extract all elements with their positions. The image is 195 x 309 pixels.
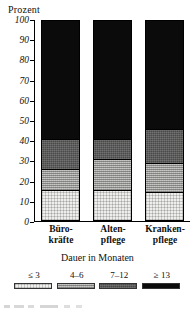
bar-segment [42,170,79,191]
bar-3 [145,20,184,221]
stacked-bar-chart: Prozent 0102030405060708090100 Büro-kräf… [0,0,195,309]
y-tick-label: 30 [20,156,30,166]
legend-label: ≤ 3 [14,270,54,281]
legend-label: ≥ 13 [142,270,182,281]
y-tick-mark [30,222,34,223]
legend-swatch [99,283,137,289]
bar-segment [42,21,79,140]
y-tick-mark [30,60,34,61]
legend: ≤ 34–67–12≥ 13 [14,270,182,289]
y-tick-label: 60 [20,96,30,106]
page-footer-artifact [4,305,114,308]
bar-segment [42,191,79,220]
y-tick-label: 50 [20,116,30,126]
y-tick-mark [30,182,34,183]
y-tick-label: 100 [15,15,29,25]
bar-segment [94,140,131,161]
y-tick-label: 40 [20,136,30,146]
y-tick-mark [30,101,34,102]
bar-segment [94,191,131,220]
y-tick-label: 80 [20,55,30,65]
legend-title: Dauer in Monaten [0,252,195,263]
legend-item-3: 7–12 [99,270,139,289]
y-tick-mark [30,20,34,21]
x-axis-labels: Büro-kräfteAlten-pflegeKranken-pflege [35,224,191,246]
y-tick-label: 0 [24,217,29,227]
y-tick-mark [30,40,34,41]
y-tick-mark [30,161,34,162]
bar-2 [93,20,132,221]
legend-swatch [57,283,95,289]
bar-group [35,20,190,221]
x-axis-label-2: Alten-pflege [88,224,138,246]
x-axis-label-1: Büro-kräfte [36,224,86,246]
bar-segment [42,140,79,170]
legend-swatch [14,283,52,289]
bar-1 [41,20,80,221]
legend-label: 7–12 [99,270,139,281]
y-tick-mark [30,202,34,203]
bar-segment [146,21,183,130]
y-tick-label: 10 [20,197,30,207]
x-axis-label-3: Kranken-pflege [140,224,190,246]
y-tick-label: 90 [20,35,30,45]
legend-label: 4–6 [57,270,97,281]
bar-segment [146,193,183,220]
bar-segment [146,130,183,164]
y-axis-title: Prozent [8,4,40,15]
y-tick-mark [30,141,34,142]
y-tick-mark [30,81,34,82]
legend-item-2: 4–6 [57,270,97,289]
legend-item-1: ≤ 3 [14,270,54,289]
y-tick-mark [30,121,34,122]
legend-swatch [142,283,180,289]
bar-segment [94,21,131,140]
legend-item-4: ≥ 13 [142,270,182,289]
bar-segment [94,160,131,190]
y-tick-label: 70 [20,76,30,86]
bar-segment [146,164,183,192]
plot-area: 0102030405060708090100 [34,20,190,222]
y-tick-label: 20 [20,177,30,187]
x-axis-line [34,221,190,222]
